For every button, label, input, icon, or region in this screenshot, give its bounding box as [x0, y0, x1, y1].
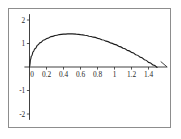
- data-series-curve: [30, 34, 158, 68]
- x-tick-label: 0.4: [59, 70, 69, 79]
- plot-canvas: 00.20.40.60.811.21.4 21-1-2: [0, 0, 181, 139]
- x-tick-label: 1.4: [144, 70, 154, 79]
- x-tick-label: 0: [30, 70, 34, 79]
- x-tick-label: 1: [113, 70, 117, 79]
- x-axis-arrowhead: [161, 62, 168, 68]
- y-tick-label: 1: [22, 39, 26, 48]
- x-tick-label: 0.6: [76, 70, 86, 79]
- y-tick-label: -1: [19, 86, 25, 95]
- x-tick-label: 0.8: [93, 70, 103, 79]
- x-tick-label: 0.2: [42, 70, 52, 79]
- y-tick-label: -2: [19, 110, 25, 119]
- curve-path: [30, 34, 158, 68]
- x-axis-ticks: 00.20.40.60.811.21.4: [30, 67, 153, 79]
- x-tick-label: 1.2: [127, 70, 137, 79]
- axes-group: [24, 14, 167, 120]
- y-tick-label: 2: [22, 16, 26, 25]
- figure-container: 00.20.40.60.811.21.4 21-1-2: [0, 0, 181, 139]
